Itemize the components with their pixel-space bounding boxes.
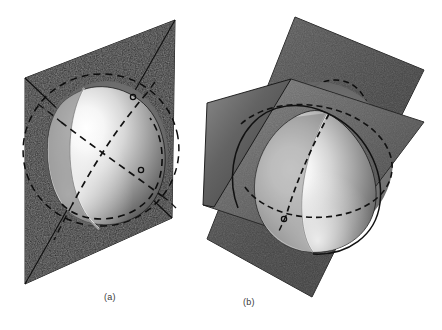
panel-b-illustration: [0, 0, 442, 330]
caption-panel-b: (b): [243, 297, 255, 307]
caption-panel-a: (a): [104, 292, 116, 302]
figure-root: (a) (b): [0, 0, 442, 330]
